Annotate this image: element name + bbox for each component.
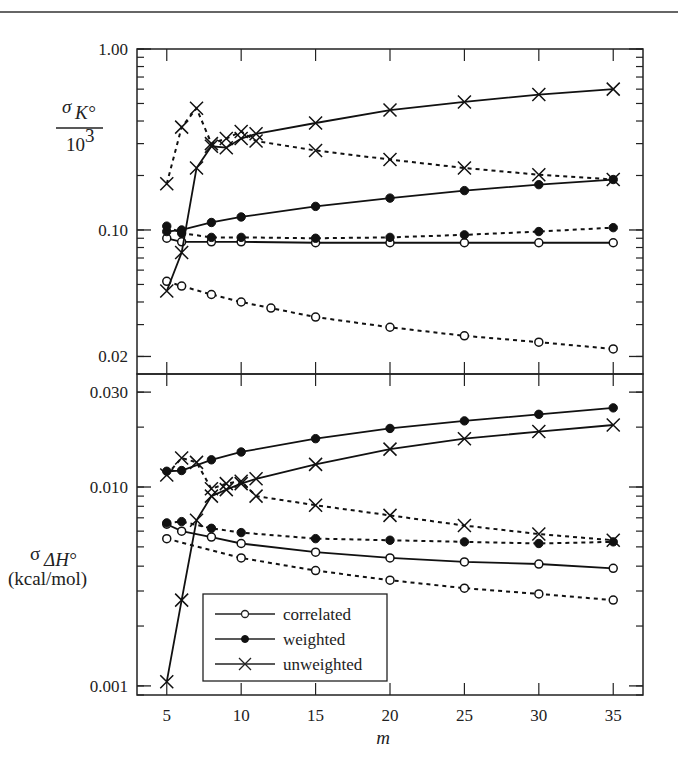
bottom-unweighted-point — [175, 451, 188, 464]
bottom-weighted-point — [237, 528, 245, 536]
bottom-weighted-point — [386, 424, 394, 432]
legend-label: correlated — [283, 605, 351, 624]
top-y-symbol: σ — [62, 96, 72, 117]
bottom-series-weighted-solid-line — [167, 408, 613, 471]
bottom-series-correlated-dotted-line — [167, 539, 613, 600]
top-series-unweighted-dotted-line — [167, 108, 613, 183]
bottom-correlated-point — [535, 590, 543, 598]
top-correlated-point — [460, 332, 468, 340]
top-unweighted-point — [160, 177, 173, 190]
bottom-y-units: (kcal/mol) — [8, 568, 87, 590]
bottom-weighted-point — [177, 517, 185, 525]
top-weighted-point — [237, 213, 245, 221]
top-weighted-point — [311, 234, 319, 242]
x-tick-label: 30 — [530, 706, 547, 725]
bottom-weighted-point — [163, 519, 171, 527]
bottom-weighted-point — [177, 466, 185, 474]
bottom-y-axis-title: σ ΔH° (kcal/mol) — [8, 543, 87, 590]
bottom-unweighted-point — [220, 483, 233, 496]
top-unweighted-point — [384, 153, 397, 166]
bottom-correlated-point — [237, 554, 245, 562]
bottom-weighted-point — [311, 534, 319, 542]
bottom-correlated-point — [609, 564, 617, 572]
top-weighted-point — [535, 180, 543, 188]
top-unweighted-point — [175, 121, 188, 134]
bottom-unweighted-point — [250, 472, 263, 485]
top-correlated-point — [609, 345, 617, 353]
x-axis-title: m — [376, 727, 390, 748]
x-tick-label: 35 — [605, 706, 622, 725]
legend-label: weighted — [283, 630, 346, 649]
bottom-weighted-point — [609, 404, 617, 412]
chart: σ K° 10 3 σ ΔH° (kcal/mol) m 1.000.100.0… — [0, 0, 678, 774]
top-y-axis-title: σ K° 10 3 — [56, 96, 103, 155]
bottom-correlated-point — [312, 548, 320, 556]
top-weighted-point — [609, 223, 617, 231]
bottom-weighted-point — [609, 538, 617, 546]
top-weighted-point — [207, 218, 215, 226]
top-unweighted-point — [235, 125, 248, 138]
bottom-unweighted-point — [205, 490, 218, 503]
top-correlated-point — [535, 239, 543, 247]
bottom-weighted-point — [386, 536, 394, 544]
bottom-weighted-point — [535, 410, 543, 418]
top-weighted-point — [237, 233, 245, 241]
bottom-weighted-point — [207, 524, 215, 532]
top-correlated-point — [207, 290, 215, 298]
top-series-weighted-solid-line — [167, 180, 613, 232]
bottom-y-tick-label: 0.030 — [90, 383, 128, 402]
top-correlated-point — [267, 304, 275, 312]
top-correlated-point — [609, 239, 617, 247]
top-correlated-point — [460, 239, 468, 247]
top-unweighted-point — [220, 132, 233, 145]
legend: correlated weighted unweighted — [203, 594, 387, 681]
bottom-weighted-point — [460, 538, 468, 546]
bottom-weighted-point — [535, 539, 543, 547]
bottom-correlated-point — [207, 533, 215, 541]
top-y-tick-label: 1.00 — [98, 40, 128, 59]
bottom-y-tick-label: 0.010 — [90, 478, 128, 497]
top-correlated-point — [535, 338, 543, 346]
top-series-unweighted-solid-line — [167, 89, 613, 291]
top-unweighted-point — [160, 285, 173, 298]
bottom-series-unweighted-dotted-line — [167, 458, 613, 540]
bottom-y-subscript: ΔH° — [43, 549, 77, 570]
bottom-correlated-point — [163, 535, 171, 543]
bottom-correlated-point — [237, 539, 245, 547]
bottom-weighted-point — [311, 434, 319, 442]
bottom-correlated-point — [386, 554, 394, 562]
bottom-unweighted-point — [458, 519, 471, 532]
bottom-unweighted-point — [235, 477, 248, 490]
top-y-tick-label: 0.02 — [98, 347, 128, 366]
x-tick-label: 20 — [382, 706, 399, 725]
top-y-denominator: 10 — [66, 134, 85, 155]
top-weighted-point — [207, 233, 215, 241]
bottom-correlated-point — [178, 527, 186, 535]
bottom-correlated-point — [460, 558, 468, 566]
top-correlated-point — [237, 298, 245, 306]
bottom-correlated-point — [535, 560, 543, 568]
bottom-unweighted-point — [250, 490, 263, 503]
x-tick-label: 25 — [456, 706, 473, 725]
top-weighted-point — [163, 222, 171, 230]
top-weighted-point — [460, 186, 468, 194]
top-y-tick-label: 0.10 — [98, 221, 128, 240]
top-unweighted-point — [190, 102, 203, 115]
bottom-correlated-point — [460, 584, 468, 592]
top-correlated-point — [312, 313, 320, 321]
top-unweighted-point — [205, 137, 218, 150]
bottom-unweighted-point — [309, 458, 322, 471]
x-tick-label: 15 — [307, 706, 324, 725]
top-weighted-point — [535, 227, 543, 235]
bottom-weighted-point — [237, 448, 245, 456]
top-weighted-point — [386, 194, 394, 202]
top-series-correlated-dotted-line — [167, 281, 613, 349]
top-weighted-point — [386, 233, 394, 241]
x-tick-label: 10 — [233, 706, 250, 725]
bottom-correlated-point — [609, 596, 617, 604]
bottom-y-symbol: σ — [30, 543, 40, 564]
top-correlated-point — [178, 282, 186, 290]
top-weighted-point — [311, 202, 319, 210]
bottom-unweighted-point — [190, 456, 203, 469]
top-correlated-point — [386, 323, 394, 331]
